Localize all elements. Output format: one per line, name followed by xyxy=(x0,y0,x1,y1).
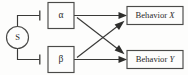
diagram-container: S α β Behavior X Behavior Y xyxy=(0,0,188,75)
edge-beta-to-behavior-x xyxy=(77,21,125,58)
behavior-x-node[interactable]: Behavior X xyxy=(127,7,183,25)
stimulus-source-node[interactable]: S xyxy=(7,27,29,49)
behavior-x-label-variable: X xyxy=(168,10,175,20)
diagram-canvas: S α β Behavior X Behavior Y xyxy=(0,0,188,75)
arrow-head-icon xyxy=(119,56,128,63)
stimulus-source-label: S xyxy=(15,32,20,42)
edge-alpha-to-behavior-y-line xyxy=(77,18,119,50)
process-beta-label: β xyxy=(59,54,64,64)
process-alpha-node[interactable]: α xyxy=(48,3,74,29)
edge-alpha-to-behavior-y xyxy=(77,18,125,55)
edge-alpha-to-behavior-x xyxy=(74,12,127,19)
behavior-y-node[interactable]: Behavior Y xyxy=(127,51,183,69)
process-alpha-label: α xyxy=(59,10,64,20)
behavior-y-label: Behavior Y xyxy=(136,54,176,64)
behavior-x-label: Behavior X xyxy=(136,10,176,20)
arrow-head-icon xyxy=(115,21,125,30)
behavior-x-label-prefix: Behavior xyxy=(136,10,170,20)
edge-beta-to-behavior-y xyxy=(74,56,127,63)
arrow-head-icon xyxy=(115,45,125,54)
edge-beta-to-behavior-x-line xyxy=(77,26,119,58)
arrow-head-icon xyxy=(119,12,128,19)
process-beta-node[interactable]: β xyxy=(48,47,74,73)
behavior-y-label-prefix: Behavior xyxy=(136,54,170,64)
